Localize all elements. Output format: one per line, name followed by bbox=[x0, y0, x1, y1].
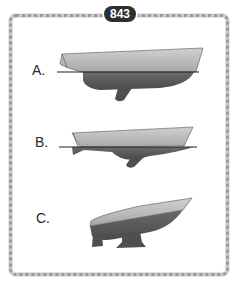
hull-b-illustration bbox=[59, 127, 197, 168]
hull-diagrams bbox=[0, 0, 239, 287]
hull-c-illustration bbox=[90, 198, 192, 248]
hull-a-illustration bbox=[57, 48, 203, 101]
